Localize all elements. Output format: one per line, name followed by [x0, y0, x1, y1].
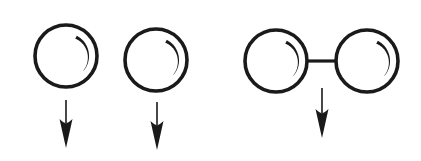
sphere-outline-icon [245, 30, 307, 92]
figure-canvas [0, 0, 421, 161]
sphere-outline-icon [336, 30, 398, 92]
diagram-svg [0, 0, 421, 161]
sphere-outline-icon [35, 25, 97, 87]
sphere-outline-icon [125, 29, 187, 91]
